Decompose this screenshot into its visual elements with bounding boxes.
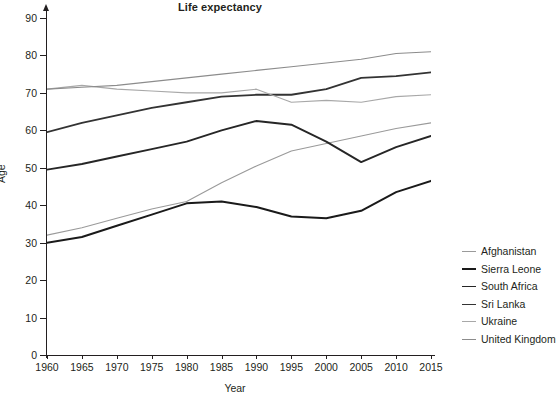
x-axis-tick <box>396 355 397 359</box>
legend-item-ukraine[interactable]: Ukraine <box>462 313 556 331</box>
y-axis-label: 30 <box>11 238 37 248</box>
y-axis-label: 60 <box>11 125 37 135</box>
y-axis-tick <box>40 93 47 94</box>
series-line-south-africa <box>47 121 431 170</box>
x-axis-label: 1980 <box>168 362 206 372</box>
x-axis-tick <box>326 355 327 359</box>
x-axis-label: 1970 <box>98 362 136 372</box>
legend-swatch-icon <box>462 339 476 340</box>
x-axis-label: 2010 <box>377 362 415 372</box>
y-axis-label: 50 <box>11 163 37 173</box>
y-axis-label: 90 <box>11 13 37 23</box>
y-axis-tick <box>40 55 47 56</box>
x-axis-tick <box>256 355 257 359</box>
y-axis-label: 80 <box>11 50 37 60</box>
x-axis-label: 1965 <box>63 362 101 372</box>
legend-label: Sierra Leone <box>481 264 541 275</box>
y-axis-label: 40 <box>11 200 37 210</box>
y-axis-label: 70 <box>11 88 37 98</box>
y-axis-label: 10 <box>11 313 37 323</box>
x-axis-title: Year <box>0 382 470 394</box>
x-axis-tick <box>82 355 83 359</box>
legend-label: United Kingdom <box>481 334 556 345</box>
legend-label: South Africa <box>481 281 538 292</box>
legend-item-united-kingdom[interactable]: United Kingdom <box>462 331 556 349</box>
x-axis-label: 1975 <box>133 362 171 372</box>
plot-area <box>47 18 431 355</box>
y-axis-tick <box>40 280 47 281</box>
y-axis-title: Age <box>0 164 7 183</box>
x-axis-label: 1990 <box>237 362 275 372</box>
x-axis-tick <box>152 355 153 359</box>
x-axis-tick <box>291 355 292 359</box>
y-axis-tick <box>40 355 47 356</box>
legend-item-sri-lanka[interactable]: Sri Lanka <box>462 296 556 314</box>
series-line-ukraine <box>47 85 431 102</box>
series-line-sierra-leone <box>47 181 431 243</box>
series-line-sri-lanka <box>47 72 431 132</box>
legend-label: Ukraine <box>481 316 517 327</box>
series-line-united-kingdom <box>47 52 431 89</box>
x-axis-label: 1960 <box>28 362 66 372</box>
x-axis-tick <box>431 355 432 359</box>
x-axis-tick <box>222 355 223 359</box>
y-axis-tick <box>40 205 47 206</box>
x-axis-tick <box>47 355 48 359</box>
legend-swatch-icon <box>462 304 476 305</box>
x-axis-label: 2005 <box>342 362 380 372</box>
legend-label: Afghanistan <box>481 246 536 257</box>
x-axis-label: 1995 <box>272 362 310 372</box>
y-axis-tick <box>40 18 47 19</box>
x-axis-tick <box>187 355 188 359</box>
y-axis-label: 0 <box>11 350 37 360</box>
legend-swatch-icon <box>462 268 476 270</box>
y-axis-tick <box>40 243 47 244</box>
y-axis-tick <box>40 168 47 169</box>
x-axis-line <box>46 355 435 356</box>
legend-swatch-icon <box>462 251 476 252</box>
legend-swatch-icon <box>462 286 476 287</box>
legend-item-sierra-leone[interactable]: Sierra Leone <box>462 261 556 279</box>
x-axis-tick <box>361 355 362 359</box>
legend-swatch-icon <box>462 321 476 322</box>
x-axis-label: 1985 <box>203 362 241 372</box>
x-axis-label: 2000 <box>307 362 345 372</box>
chart-title: Life expectancy <box>0 1 440 13</box>
y-axis-tick <box>40 318 47 319</box>
x-axis-tick <box>117 355 118 359</box>
chart-legend: AfghanistanSierra LeoneSouth AfricaSri L… <box>462 243 556 348</box>
legend-item-south-africa[interactable]: South Africa <box>462 278 556 296</box>
series-lines <box>47 18 431 355</box>
series-line-afghanistan <box>47 123 431 235</box>
y-axis-tick <box>40 130 47 131</box>
legend-label: Sri Lanka <box>481 299 525 310</box>
y-axis-label: 20 <box>11 275 37 285</box>
x-axis-label: 2015 <box>412 362 450 372</box>
legend-item-afghanistan[interactable]: Afghanistan <box>462 243 556 261</box>
